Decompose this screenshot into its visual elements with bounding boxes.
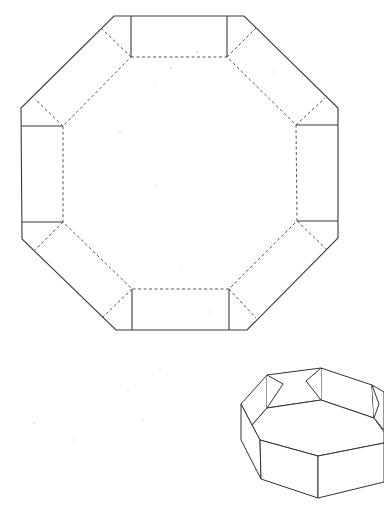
net-outer-outline — [21, 16, 338, 330]
wall-cut-lines — [21, 16, 338, 330]
corner-fold-lines — [35, 28, 326, 318]
paper-specks — [33, 51, 275, 441]
base-fold-octagon — [63, 57, 297, 289]
assembled-box-illustration — [241, 368, 384, 498]
octagon-box-net — [0, 0, 384, 516]
